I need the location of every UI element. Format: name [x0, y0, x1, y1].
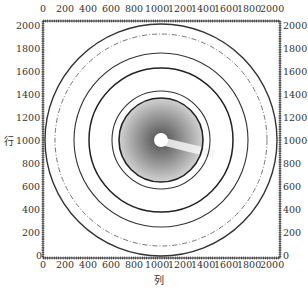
- right-tick-1600: 1600: [283, 67, 307, 77]
- top-tick-1800: 1800: [237, 4, 261, 14]
- x-tick-200: 200: [56, 260, 74, 270]
- top-tick-1600: 1600: [214, 4, 238, 14]
- x-tick-1200: 1200: [168, 260, 192, 270]
- y-tick-400: 400: [22, 205, 40, 215]
- x-tick-1400: 1400: [191, 260, 215, 270]
- top-tick-800: 800: [125, 4, 143, 14]
- x-tick-1800: 1800: [237, 260, 261, 270]
- top-tick-200: 200: [56, 4, 74, 14]
- right-tick-1400: 1400: [283, 90, 307, 100]
- right-tick-600: 600: [283, 182, 301, 192]
- top-tick-1200: 1200: [168, 4, 192, 14]
- y-tick-800: 800: [22, 159, 40, 169]
- y-tick-200: 200: [22, 228, 40, 238]
- top-tick-1400: 1400: [191, 4, 215, 14]
- y-tick-0: 0: [36, 251, 42, 261]
- right-tick-0: 0: [283, 251, 289, 261]
- x-tick-1000: 1000: [145, 260, 169, 270]
- x-tick-400: 400: [79, 260, 97, 270]
- x-tick-0: 0: [40, 260, 46, 270]
- right-tick-1000: 1000: [283, 136, 307, 146]
- x-axis-title: 列: [154, 272, 164, 287]
- y-axis-title: 行: [4, 133, 14, 148]
- top-tick-1000: 1000: [145, 4, 169, 14]
- top-tick-400: 400: [79, 4, 97, 14]
- y-tick-600: 600: [22, 182, 40, 192]
- top-tick-0: 0: [40, 4, 46, 14]
- right-tick-800: 800: [283, 159, 301, 169]
- x-tick-600: 600: [102, 260, 120, 270]
- diffraction-plot: [0, 0, 308, 293]
- x-tick-2000: 2000: [260, 260, 284, 270]
- y-tick-1800: 1800: [16, 44, 40, 54]
- x-tick-1600: 1600: [214, 260, 238, 270]
- diffraction-image: [43, 21, 280, 258]
- top-tick-2000: 2000: [260, 4, 284, 14]
- right-tick-1200: 1200: [283, 113, 307, 123]
- right-tick-1800: 1800: [283, 44, 307, 54]
- y-tick-1400: 1400: [16, 90, 40, 100]
- y-tick-1200: 1200: [16, 113, 40, 123]
- y-tick-1600: 1600: [16, 67, 40, 77]
- y-tick-2000: 2000: [16, 21, 40, 31]
- direct-beam-spot: [154, 133, 168, 147]
- right-tick-200: 200: [283, 228, 301, 238]
- top-tick-600: 600: [102, 4, 120, 14]
- right-tick-400: 400: [283, 205, 301, 215]
- right-tick-2000: 2000: [283, 21, 307, 31]
- x-tick-800: 800: [125, 260, 143, 270]
- y-tick-1000: 1000: [16, 136, 40, 146]
